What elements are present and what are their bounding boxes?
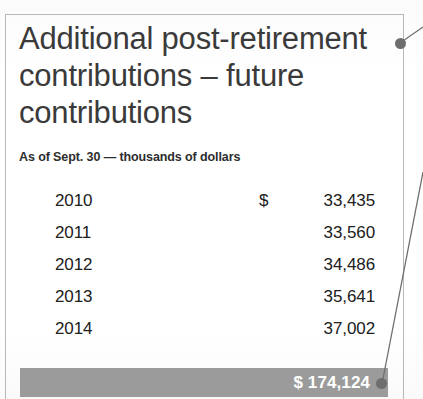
table-row: 2013 35,641	[19, 287, 379, 319]
title-line-2: contributions – future	[19, 57, 394, 94]
title-line-3: contributions	[19, 94, 394, 131]
row-value: 33,560	[285, 223, 379, 243]
scanned-page: Additional post-retirement contributions…	[0, 0, 423, 399]
row-value: 35,641	[285, 287, 379, 307]
row-year: 2011	[19, 223, 259, 243]
title-line-1: Additional post-retirement	[19, 20, 394, 57]
row-year: 2012	[19, 255, 259, 275]
page-title: Additional post-retirement contributions…	[19, 20, 394, 131]
annotation-dot-total-icon	[376, 378, 387, 389]
total-amount-label: $ 174,124	[293, 373, 388, 393]
row-year: 2010	[19, 191, 259, 211]
contributions-table: 2010 $ 33,435 2011 33,560 2012 34,486 20…	[19, 191, 379, 351]
table-row: 2014 37,002	[19, 319, 379, 351]
row-value: 33,435	[285, 191, 379, 211]
table-row: 2011 33,560	[19, 223, 379, 255]
row-currency-symbol: $	[259, 191, 285, 211]
table-row: 2010 $ 33,435	[19, 191, 379, 223]
annotation-dot-title-icon	[395, 38, 406, 49]
row-year: 2014	[19, 319, 259, 339]
subtitle: As of Sept. 30 — thousands of dollars	[19, 150, 240, 164]
row-value: 34,486	[285, 255, 379, 275]
row-year: 2013	[19, 287, 259, 307]
table-row: 2012 34,486	[19, 255, 379, 287]
row-value: 37,002	[285, 319, 379, 339]
total-bar: $ 174,124	[20, 368, 388, 397]
